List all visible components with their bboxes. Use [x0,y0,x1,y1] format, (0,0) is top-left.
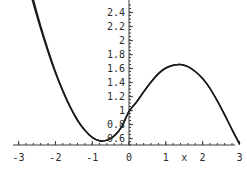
x-tick-label: 0 [109,153,149,163]
x-axis-label: x [164,153,204,163]
y-tick-label: 0.6 [77,134,125,144]
y-tick-label: 1.8 [77,50,125,60]
x-tick-label: -3 [0,153,39,163]
y-tick-label: 1.4 [77,78,125,88]
y-tick-label: 2.4 [77,8,125,18]
y-tick-label: 1.6 [77,64,125,74]
x-tick-label: -1 [72,153,112,163]
y-tick-label: 2 [77,36,125,46]
y-tick-label: 2.2 [77,22,125,32]
y-tick-label: 0.8 [77,120,125,130]
x-tick-label: -2 [35,153,75,163]
x-tick-label: 3 [219,153,247,163]
y-tick-label: 1 [77,106,125,116]
function-plot: -3-2-101230.60.811.21.41.61.822.22.4 x [0,0,247,171]
y-tick-label: 1.2 [77,92,125,102]
